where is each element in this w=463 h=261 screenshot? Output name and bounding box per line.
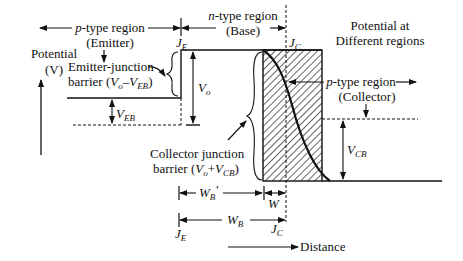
emitter-barrier-label-line2: barrier (Vo–VEB) (68, 74, 152, 91)
diagram-canvas: Potential (V) p-type region (Emitter) n-… (0, 0, 463, 261)
base-region-sublabel: (Base) (226, 23, 260, 38)
jc-label-bottom: JC (271, 221, 284, 238)
collector-barrier-pointer (228, 121, 246, 140)
je-label-bottom: JE (175, 226, 187, 243)
diagram-title-line2: Different regions (336, 33, 425, 48)
emitter-barrier-label-line1: Emitter-junction (68, 59, 154, 74)
collector-barrier-label-line2: barrier (Vo+VCB) (153, 161, 239, 178)
base-region-label: n-type region (208, 8, 278, 23)
collector-region-sublabel: (Collector) (338, 89, 395, 104)
collector-region-label: p-type region (325, 74, 396, 89)
potential-axis-unit: (V) (45, 62, 63, 77)
emitter-region-label: p-type region (74, 20, 145, 35)
wb-prime-label: WB' (199, 182, 218, 202)
distance-axis-label: Distance (300, 239, 346, 254)
veb-label: VEB (116, 106, 135, 123)
collector-barrier-brace (247, 52, 262, 180)
diagram-title-line1: Potential at (351, 18, 410, 33)
vcb-label: VCB (347, 142, 367, 159)
emitter-barrier-brace (167, 52, 178, 96)
emitter-region-sublabel: (Emitter) (86, 35, 134, 50)
w-label: W (268, 196, 280, 211)
wb-label: WB (227, 212, 244, 229)
collector-barrier-label-line1: Collector junction (150, 146, 245, 161)
vo-label: Vo (198, 80, 211, 97)
bjt-potential-diagram: Potential (V) p-type region (Emitter) n-… (0, 0, 463, 261)
